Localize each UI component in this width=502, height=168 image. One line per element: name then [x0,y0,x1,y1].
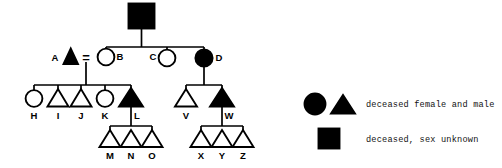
founder-square-filled[interactable] [129,4,155,29]
individual-Y[interactable]: Y [212,130,233,161]
Y-triangle-open[interactable] [212,130,233,147]
label-V: V [183,110,190,121]
individual-H[interactable]: H [26,90,43,121]
O-triangle-open[interactable] [142,130,163,147]
L-triangle-filled[interactable] [119,88,143,107]
individual-J[interactable]: J [71,89,92,121]
label-X: X [198,150,205,161]
label-B: B [117,51,124,62]
individual-D[interactable]: D [195,49,222,66]
individual-X[interactable]: X [191,130,212,161]
label-M: M [106,150,114,161]
individual-B[interactable]: B [98,49,124,66]
C-circle-open[interactable] [159,50,176,67]
label-H: H [31,110,38,121]
legend-row-deceased-unknown: deceased, sex unknown [319,129,479,149]
individual-K[interactable]: K [97,90,114,121]
V-triangle-open[interactable] [175,89,197,107]
legend-row-deceased-female-male: deceased female and male [305,94,495,115]
pedigree-canvas: A = B C D [0,0,502,168]
individual-O[interactable]: O [142,130,163,161]
I-triangle-open[interactable] [48,89,69,107]
legend-label-deceased-female-male: deceased female and male [366,100,495,110]
W-triangle-filled[interactable] [210,88,234,107]
label-D: D [216,52,223,63]
B-circle-open[interactable] [98,49,115,66]
label-Y: Y [219,150,226,161]
individual-Z[interactable]: Z [233,130,254,161]
individual-founder[interactable] [129,4,155,29]
H-circle-open[interactable] [26,90,43,107]
legend-filled-triangle-icon [331,95,355,114]
individual-M[interactable]: M [100,130,121,161]
label-J: J [78,110,83,121]
individual-A[interactable]: A [52,49,78,65]
individual-V[interactable]: V [175,89,197,121]
pedigree-figure: A = B C D [0,0,502,168]
label-O: O [148,150,155,161]
label-N: N [128,150,135,161]
X-triangle-open[interactable] [191,130,212,147]
D-circle-filled[interactable] [195,49,212,66]
label-K: K [102,110,109,121]
label-L: L [134,110,140,121]
individual-C[interactable]: C [150,50,176,67]
legend-filled-square-icon [319,129,340,149]
label-Z: Z [240,150,246,161]
label-C: C [150,51,157,62]
legend-label-deceased-unknown: deceased, sex unknown [366,135,479,145]
Z-triangle-open[interactable] [233,130,254,147]
N-triangle-open[interactable] [121,130,142,147]
M-triangle-open[interactable] [100,130,121,147]
A-triangle-filled[interactable] [64,49,79,65]
individual-I[interactable]: I [48,89,69,121]
label-I: I [57,110,60,121]
legend-filled-circle-icon [305,94,326,115]
label-W: W [225,110,234,121]
J-triangle-open[interactable] [71,89,92,107]
K-circle-open[interactable] [97,90,114,107]
label-A: A [52,52,59,63]
individual-N[interactable]: N [121,130,142,161]
legend: deceased female and male deceased, sex u… [305,94,495,149]
